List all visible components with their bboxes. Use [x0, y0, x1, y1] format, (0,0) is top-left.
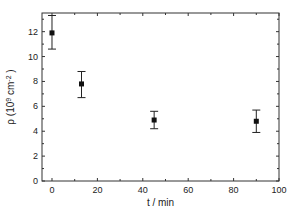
data-point	[152, 118, 157, 123]
chart: 020406080100024681012t / minρ (109 cm-2 …	[0, 0, 296, 216]
x-tick-label: 0	[49, 185, 54, 195]
x-tick-label: 40	[138, 185, 148, 195]
x-tick-label: 100	[271, 185, 286, 195]
y-tick-label: 4	[33, 126, 38, 136]
y-tick-label: 2	[33, 151, 38, 161]
y-tick-label: 0	[33, 176, 38, 186]
data-point	[79, 81, 84, 86]
x-tick-label: 60	[183, 185, 193, 195]
y-axis-label: ρ (109 cm-2 )	[5, 69, 16, 124]
plot-frame	[42, 13, 279, 181]
x-tick-label: 80	[229, 185, 239, 195]
data-point	[254, 119, 259, 124]
y-tick-label: 8	[33, 76, 38, 86]
data-point	[49, 30, 54, 35]
x-axis-label: t / min	[147, 197, 174, 208]
y-tick-label: 12	[28, 27, 38, 37]
y-tick-label: 6	[33, 101, 38, 111]
y-tick-label: 10	[28, 52, 38, 62]
x-tick-label: 20	[92, 185, 102, 195]
